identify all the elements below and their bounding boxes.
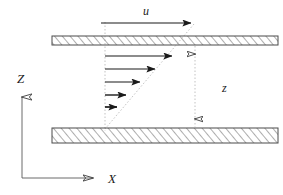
gap-height-label-z: z [222,82,227,94]
axis-label-x: X [108,172,116,185]
velocity-label-u: u [143,5,149,17]
stationary-plate [52,128,278,143]
moving-plate [52,36,278,45]
axis-label-z: Z [17,72,24,85]
velocity-profile-arrows [105,56,172,107]
couette-flow-figure: u z Z X [0,0,283,195]
figure-canvas [0,0,283,195]
